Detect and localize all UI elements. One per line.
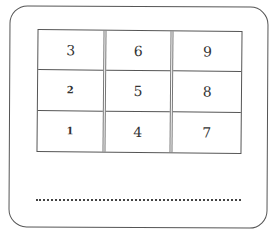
grid-column-3: 9 8 7 <box>173 31 242 153</box>
grid-cell: 1 <box>37 111 102 152</box>
grid-cell: 8 <box>173 72 241 113</box>
number-grid: 3 2 1 6 5 4 9 8 7 <box>36 29 242 154</box>
grid-cell: 9 <box>174 31 242 72</box>
grid-cell: 4 <box>105 111 170 152</box>
dotted-answer-line <box>36 199 241 201</box>
grid-cell: 2 <box>38 70 103 111</box>
grid-cell: 5 <box>105 71 170 112</box>
grid-cell: 3 <box>38 30 103 71</box>
grid-cell: 6 <box>106 31 171 72</box>
grid-column-1: 3 2 1 <box>37 30 106 152</box>
grid-cell: 7 <box>173 112 241 153</box>
grid-column-2: 6 5 4 <box>105 31 174 153</box>
